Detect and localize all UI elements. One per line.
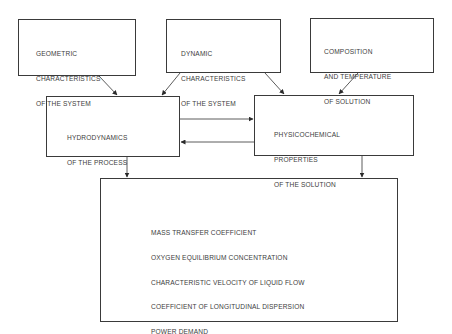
node-output-list: MASS TRANSFER COEFFICIENT OXYGEN EQUILIB…	[151, 213, 305, 334]
label-line: OF THE SYSTEM	[181, 100, 246, 108]
label-line: PROPERTIES	[274, 156, 340, 164]
label-line: CHARACTERISTICS	[181, 75, 246, 83]
label-line: HYDRODYNAMICS	[67, 134, 128, 142]
label-line: PHYSICOCHEMICAL	[274, 131, 340, 139]
arrow-dynamic-to-physicochemical	[265, 73, 284, 94]
output-item: CHARACTERISTIC VELOCITY OF LIQUID FLOW	[151, 279, 305, 287]
output-item: COEFFICIENT OF LONGITUDINAL DISPERSION	[151, 303, 305, 311]
arrow-geometric-to-hydrodynamics	[99, 76, 117, 95]
label-line: GEOMETRIC	[36, 50, 101, 58]
node-dynamic-label: DYNAMIC CHARACTERISTICS OF THE SYSTEM	[181, 34, 246, 116]
output-item: MASS TRANSFER COEFFICIENT	[151, 229, 305, 237]
label-line: OF THE PROCESS	[67, 159, 128, 167]
node-hydrodynamics-label: HYDRODYNAMICS OF THE PROCESS	[67, 118, 128, 175]
label-line: COMPOSITION	[324, 48, 391, 56]
output-item: OXYGEN EQUILIBRIUM CONCENTRATION	[151, 254, 305, 262]
label-line: CHARACTERISTICS	[36, 75, 101, 83]
output-item: POWER DEMAND	[151, 328, 305, 334]
label-line: DYNAMIC	[181, 50, 246, 58]
label-line: AND TEMPERATURE	[324, 73, 391, 81]
arrow-dynamic-to-hydrodynamics	[162, 73, 180, 95]
